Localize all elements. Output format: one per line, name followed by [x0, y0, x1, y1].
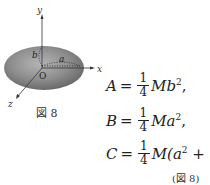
ellipsoid-figure: y x z b a O [0, 0, 110, 110]
eq-op: = [120, 112, 133, 130]
origin-label: O [39, 71, 46, 81]
equation-reference: (図 8) [172, 170, 199, 185]
a-label: a [59, 54, 64, 64]
equation-c: C = 1 4 M(a2 + b² ) [106, 140, 210, 167]
equation-b: B = 1 4 Ma2, [106, 107, 186, 134]
eq-op: = [120, 77, 133, 95]
eq-rhs: Ma2, [151, 112, 186, 130]
eq-rhs: Mb2, [151, 77, 186, 95]
eq-op: = [120, 145, 133, 163]
equation-a: A = 1 4 Mb2, [106, 72, 187, 99]
eq-lhs: C [106, 145, 117, 163]
fraction: 1 4 [137, 72, 149, 99]
x-axis-label: x [97, 64, 102, 74]
figure-caption: 図 8 [36, 104, 58, 120]
eq-lhs: A [106, 77, 117, 95]
ellipsoid-diagram: y x z b a O [0, 0, 110, 110]
b-label: b [32, 50, 38, 60]
y-axis-label: y [36, 5, 43, 15]
eq-lhs: B [106, 112, 117, 130]
fraction: 1 4 [138, 107, 150, 134]
fraction: 1 4 [138, 140, 150, 167]
eq-rhs: M(a2 + b² ) [152, 145, 210, 163]
z-axis-label: z [7, 99, 13, 109]
